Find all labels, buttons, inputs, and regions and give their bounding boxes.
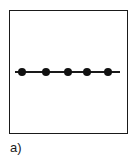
node-dot — [83, 68, 91, 76]
node-dot — [42, 68, 50, 76]
chain-diagram — [0, 0, 138, 162]
node-dot — [18, 68, 26, 76]
figure-caption: a) — [10, 141, 22, 155]
node-dot — [104, 68, 112, 76]
node-dot — [64, 68, 72, 76]
